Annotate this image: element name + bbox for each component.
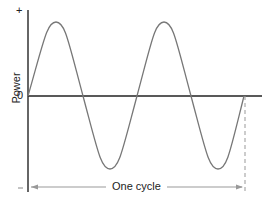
cycle-label: One cycle bbox=[108, 180, 165, 192]
power-cycle-diagram bbox=[0, 0, 265, 203]
y-axis-label: Power bbox=[10, 68, 22, 108]
plus-label: + bbox=[16, 4, 22, 16]
arrowhead-left-icon bbox=[31, 185, 38, 190]
arrowhead-right-icon bbox=[236, 185, 243, 190]
